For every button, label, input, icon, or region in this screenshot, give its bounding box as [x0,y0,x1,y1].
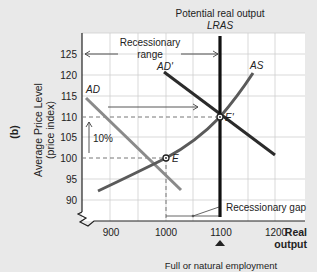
ad-prime-label: AD' [156,61,174,72]
diagram-canvas: Potential real output LRAS Recessionary … [0,0,317,272]
x-axis-label-2: output [274,238,307,250]
y-tick: 90 [66,195,78,206]
recessionary-range-label-2: range [137,49,163,60]
full-employment-label: Full or natural employment [165,260,278,271]
x-axis-ticks: 900 1000 1100 1200 [103,227,288,238]
x-tick: 900 [103,227,120,238]
y-axis-label-1: Average Price Level [32,83,44,177]
y-tick: 115 [61,91,77,102]
y-tick: 120 [60,70,77,81]
x-tick: 1100 [210,227,232,238]
title-line1: Potential real output [176,8,265,19]
aggregate-demand-supply-diagram: Potential real output LRAS Recessionary … [0,0,317,272]
y-axis-label-2: (price index) [44,101,56,159]
y-tick: 125 [60,49,77,60]
y-tick: 100 [60,153,77,164]
x-axis-label-1: Real [285,226,307,238]
full-employment-marker-icon [215,240,225,246]
e-prime-label: E' [225,112,235,123]
ten-percent-label: 10% [93,133,113,144]
recessionary-gap-label: Recessionary gap [226,202,306,213]
recessionary-range-label-1: Recessionary [120,37,181,48]
y-axis-ticks: 125 120 115 110 105 100 95 90 [60,49,77,206]
x-tick: 1000 [155,227,178,238]
title-lras: LRAS [207,20,233,31]
panel-label: (b) [8,125,20,138]
e-label: E [172,153,179,164]
as-label: AS [249,60,264,71]
y-tick: 105 [60,132,77,143]
y-tick: 95 [66,174,78,185]
y-tick: 110 [61,112,77,123]
ad-label: AD [85,84,100,95]
